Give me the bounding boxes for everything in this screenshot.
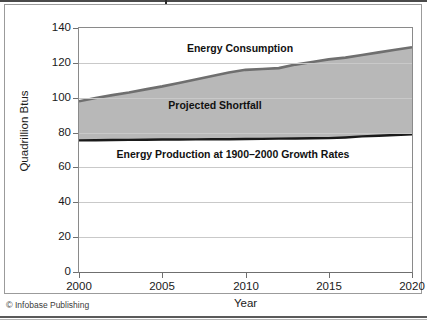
gridline-horizontal	[79, 237, 412, 238]
y-axis-tick-label: 20	[37, 231, 71, 242]
y-axis-tick-label: 140	[37, 22, 71, 33]
chart-page: { "credit": { "mark": "\u00a9", "text": …	[0, 0, 427, 322]
top-divider-rule	[0, 0, 427, 2]
gridline-horizontal	[79, 167, 412, 168]
annotation-energy-production: Energy Production at 1900–2000 Growth Ra…	[83, 148, 383, 160]
credit-text: Infobase Publishing	[13, 300, 90, 310]
gridline-horizontal	[79, 202, 412, 203]
y-axis-tick	[73, 63, 78, 64]
y-axis-tick-label: 0	[37, 266, 71, 277]
y-axis-labels: 140120100806040200	[27, 5, 71, 295]
y-axis-tick	[73, 237, 78, 238]
x-axis-tick-label: 2005	[140, 280, 184, 292]
copyright-icon: ©	[6, 300, 13, 310]
x-axis-tick	[246, 273, 247, 278]
y-axis-tick-label: 120	[37, 57, 71, 68]
x-axis-title: Year	[78, 297, 413, 309]
y-axis-tick	[73, 98, 78, 99]
x-axis-tick-label: 2015	[307, 280, 351, 292]
x-axis-tick	[329, 273, 330, 278]
x-axis-tick	[412, 273, 413, 278]
y-axis-tick	[73, 28, 78, 29]
y-axis-tick-label: 100	[37, 92, 71, 103]
y-axis-tick	[73, 272, 78, 273]
credit-line: © Infobase Publishing	[6, 300, 89, 310]
annotation-projected-shortfall: Projected Shortfall	[125, 99, 305, 111]
y-axis-tick-label: 80	[37, 127, 71, 138]
x-axis-tick-label: 2000	[57, 280, 101, 292]
y-axis-tick-label: 60	[37, 161, 71, 172]
annotation-energy-consumption: Energy Consumption	[125, 42, 355, 54]
bottom-divider-rule-secondary	[0, 319, 427, 320]
x-axis-tick	[79, 273, 80, 278]
y-axis-title: Quadrillion Btus	[18, 56, 30, 206]
y-axis-tick	[73, 133, 78, 134]
x-axis-tick	[162, 273, 163, 278]
gridline-horizontal	[79, 63, 412, 64]
y-axis-tick	[73, 202, 78, 203]
figure-frame: 140120100806040200 Quadrillion Btus Year…	[4, 4, 422, 294]
gridline-horizontal	[79, 133, 412, 134]
y-axis-tick-label: 40	[37, 196, 71, 207]
x-axis-tick-label: 2010	[224, 280, 268, 292]
x-axis-tick-label: 2020	[390, 280, 427, 292]
bottom-divider-rule	[0, 316, 427, 318]
y-axis-tick	[73, 167, 78, 168]
